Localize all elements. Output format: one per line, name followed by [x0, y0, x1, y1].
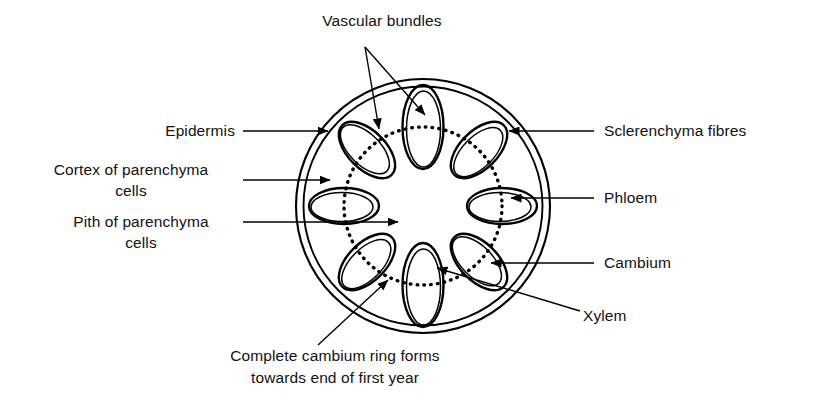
stem-outline [296, 79, 550, 333]
label-pith-line1: Pith of parenchyma [46, 211, 236, 232]
caption-line1: Complete cambium ring forms [175, 345, 495, 366]
cambium-ring [344, 127, 502, 285]
label-sclerenchyma-fibres: Sclerenchyma fibres [604, 120, 814, 141]
leader-vascular-bundles-right [365, 47, 425, 115]
vascular-bundle [329, 112, 405, 188]
label-vascular-bundles: Vascular bundles [272, 10, 492, 31]
label-pith-line2: cells [46, 232, 236, 253]
label-cambium: Cambium [604, 252, 764, 273]
vascular-bundle [403, 85, 444, 169]
epidermis-circle [296, 79, 550, 333]
diagram-canvas: Vascular bundles Epidermis Cortex of par… [0, 0, 815, 416]
label-cortex-line1: Cortex of parenchyma [26, 159, 236, 180]
label-cortex-line2: cells [26, 180, 236, 201]
label-phloem: Phloem [604, 187, 764, 208]
label-epidermis: Epidermis [40, 120, 235, 141]
caption-line2: towards end of first year [175, 367, 495, 388]
leader-xylem [437, 268, 580, 311]
label-xylem: Xylem [583, 305, 743, 326]
